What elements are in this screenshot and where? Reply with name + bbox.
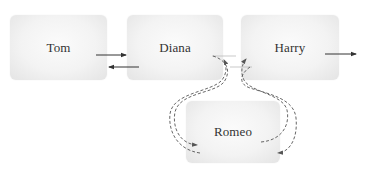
node-label-diana: Diana [159,40,191,56]
node-label-tom: Tom [47,40,71,56]
node-tom: Tom [10,15,107,80]
node-harry: Harry [241,15,339,80]
node-label-romeo: Romeo [214,124,252,140]
node-diana: Diana [127,15,223,80]
node-romeo: Romeo [186,101,280,163]
node-label-harry: Harry [275,40,306,56]
